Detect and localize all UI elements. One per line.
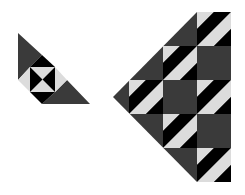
hourglass-block [197,148,231,182]
hourglass-block [197,80,231,114]
large-quilt-piece [113,12,231,182]
quilt-diagram [0,0,245,195]
hourglass-block [197,12,231,46]
small-quilt-piece [18,33,90,104]
hourglass-block [163,114,197,148]
hourglass-block [129,80,163,114]
small-hourglass-block [30,67,55,92]
hourglass-block [163,46,197,80]
